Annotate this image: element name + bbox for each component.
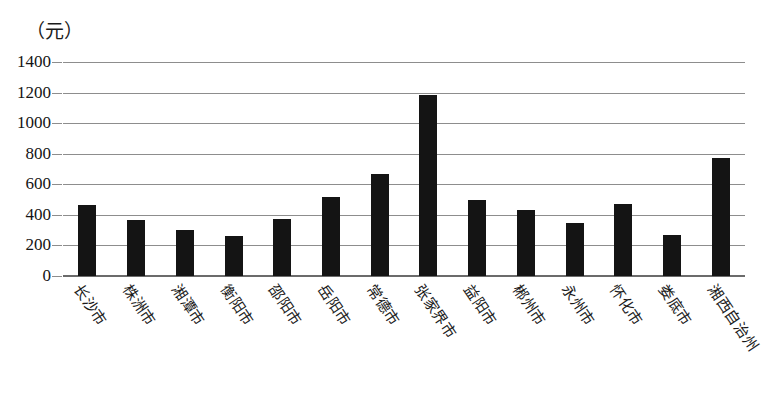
y-tick-label: 800 xyxy=(26,144,52,164)
x-axis-label: 郴州市 xyxy=(509,282,548,329)
y-tick-mark-600 xyxy=(52,184,62,185)
y-tick-mark-200 xyxy=(52,245,62,246)
bar xyxy=(663,235,681,276)
y-tick-mark-0 xyxy=(52,276,62,277)
x-axis-line xyxy=(63,275,745,277)
x-axis-label: 株洲市 xyxy=(119,282,158,329)
gridline-400 xyxy=(63,215,745,216)
bar xyxy=(78,205,96,276)
x-axis-label: 益阳市 xyxy=(460,282,499,329)
bar xyxy=(225,236,243,277)
y-tick-label: 600 xyxy=(26,174,52,194)
bar xyxy=(419,95,437,276)
gridline-200 xyxy=(63,245,745,246)
bar xyxy=(468,200,486,276)
y-tick-label: 0 xyxy=(43,266,52,286)
bar xyxy=(566,223,584,276)
x-axis-label: 衡阳市 xyxy=(216,282,255,329)
x-axis-category-labels: 长沙市株洲市湘潭市衡阳市邵阳市岳阳市常德市张家界市益阳市郴州市永州市怀化市娄底市… xyxy=(63,278,745,412)
gridline-800 xyxy=(63,154,745,155)
y-tick-mark-1400 xyxy=(52,62,62,63)
x-axis-label: 张家界市 xyxy=(411,282,459,342)
bar xyxy=(322,197,340,276)
y-tick-mark-800 xyxy=(52,154,62,155)
y-tick-label: 400 xyxy=(26,205,52,225)
y-tick-label: 1000 xyxy=(17,113,51,133)
bar xyxy=(614,204,632,276)
y-axis-tick-labels: 0200400600800100012001400 xyxy=(0,62,57,276)
gridline-1000 xyxy=(63,123,745,124)
x-axis-label: 湘西自治州 xyxy=(704,282,760,355)
bar xyxy=(517,210,535,276)
bar xyxy=(273,219,291,276)
y-tick-label: 1400 xyxy=(17,52,51,72)
y-tick-mark-1000 xyxy=(52,123,62,124)
y-axis-unit-label: （元） xyxy=(26,16,83,43)
x-axis-label: 湘潭市 xyxy=(168,282,207,329)
gridline-1400 xyxy=(63,62,745,63)
gridline-1200 xyxy=(63,93,745,94)
y-tick-label: 200 xyxy=(26,235,52,255)
bar xyxy=(712,158,730,276)
x-axis-label: 岳阳市 xyxy=(314,282,353,329)
bar xyxy=(176,230,194,276)
y-tick-mark-1200 xyxy=(52,93,62,94)
x-axis-label: 常德市 xyxy=(363,282,402,329)
gridline-600 xyxy=(63,184,745,185)
y-tick-mark-400 xyxy=(52,215,62,216)
x-axis-label: 邵阳市 xyxy=(265,282,304,329)
y-tick-label: 1200 xyxy=(17,83,51,103)
x-axis-label: 永州市 xyxy=(557,282,596,329)
x-axis-label: 怀化市 xyxy=(606,282,645,329)
x-axis-label: 娄底市 xyxy=(655,282,694,329)
x-axis-label: 长沙市 xyxy=(70,282,109,329)
bar xyxy=(127,220,145,276)
plot-area xyxy=(63,62,745,276)
bar xyxy=(371,174,389,276)
